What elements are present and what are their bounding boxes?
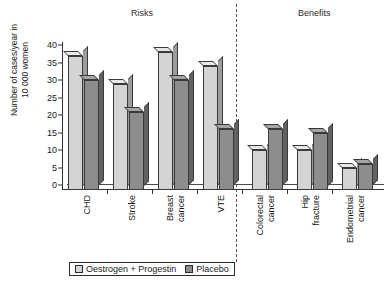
bar-front-face <box>203 66 218 190</box>
bar-front-face <box>158 52 173 190</box>
bar-hip-fracture-oestrogen-progestin[interactable] <box>297 150 312 190</box>
bar-vte-oestrogen-progestin[interactable] <box>203 66 218 190</box>
x-axis-label-hip-line1: Hip <box>300 195 310 209</box>
chart-figure: Risks Benefits Number of cases/year in 1… <box>0 0 391 290</box>
bar-front-face <box>313 133 328 191</box>
bar-front-face <box>219 129 234 190</box>
y-tick-mark-0 <box>58 185 62 186</box>
y-axis-line <box>62 42 63 190</box>
y-tick-mark-25 <box>58 97 62 98</box>
x-axis-label-breast-cancer-line2: cancer <box>176 195 186 222</box>
legend-entry-oestrogen-progestin[interactable]: Oestrogen + Progestin <box>75 264 176 274</box>
legend-swatch-icon-oestrogen-progestin <box>75 265 83 273</box>
x-axis-label-colorectal-line1: Colorectal <box>255 195 265 236</box>
bar-colorectal-cancer-oestrogen-progestin[interactable] <box>252 150 267 190</box>
x-tick-mark-4 <box>242 190 243 194</box>
bar-chd-placebo[interactable] <box>84 80 99 190</box>
legend-label-oestrogen-progestin: Oestrogen + Progestin <box>86 264 176 274</box>
plot-area: 0 5 10 15 20 25 30 35 40 <box>62 45 384 190</box>
x-axis-label-colorectal-line2: cancer <box>266 195 276 222</box>
bar-side-face <box>328 123 333 186</box>
bar-hip-fracture-placebo[interactable] <box>313 133 328 191</box>
legend-label-placebo: Placebo <box>196 264 229 274</box>
x-tick-mark-6 <box>332 190 333 194</box>
y-tick-mark-30 <box>58 80 62 81</box>
bar-front-face <box>342 168 357 191</box>
bar-front-face <box>174 80 189 190</box>
bar-vte-placebo[interactable] <box>219 129 234 190</box>
y-tick-mark-10 <box>58 150 62 151</box>
bar-stroke-placebo[interactable] <box>129 112 144 191</box>
section-header-benefits: Benefits <box>298 8 331 18</box>
bar-front-face <box>358 164 373 190</box>
bar-side-face <box>283 119 288 185</box>
y-tick-mark-20 <box>58 115 62 116</box>
bar-stroke-oestrogen-progestin[interactable] <box>113 84 128 191</box>
chart-legend: Oestrogen + Progestin Placebo <box>69 262 235 276</box>
y-axis-title: Number of cases/year in 10 000 women <box>9 0 37 145</box>
y-tick-mark-15 <box>58 132 62 133</box>
bar-colorectal-cancer-placebo[interactable] <box>268 129 283 190</box>
x-tick-mark-2 <box>152 190 153 194</box>
x-axis-label-vte: VTE <box>216 195 226 213</box>
x-tick-mark-5 <box>287 190 288 194</box>
bar-side-face <box>144 102 149 186</box>
y-tick-mark-5 <box>58 167 62 168</box>
legend-swatch-icon-placebo <box>185 265 193 273</box>
bar-side-face <box>189 70 194 185</box>
section-header-risks: Risks <box>131 8 153 18</box>
y-axis-title-line2: 10 000 women <box>20 42 30 98</box>
bar-front-face <box>113 84 128 191</box>
x-axis-label-hip-line2: fracture <box>311 195 321 226</box>
bar-endometrial-cancer-placebo[interactable] <box>358 164 373 190</box>
x-axis-label-stroke: Stroke <box>127 195 137 221</box>
bar-front-face <box>252 150 267 190</box>
bar-side-face <box>373 154 378 185</box>
x-axis-label-endometrial-line2: cancer <box>356 195 366 222</box>
legend-entry-placebo[interactable]: Placebo <box>185 264 229 274</box>
bar-endometrial-cancer-oestrogen-progestin[interactable] <box>342 168 357 191</box>
y-tick-mark-40 <box>58 45 62 46</box>
bar-breast-cancer-oestrogen-progestin[interactable] <box>158 52 173 190</box>
y-axis-title-line1: Number of cases/year in <box>9 24 19 116</box>
bar-front-face <box>84 80 99 190</box>
bar-side-face <box>234 119 239 185</box>
y-tick-mark-35 <box>58 62 62 63</box>
bar-front-face <box>129 112 144 191</box>
x-axis-label-breast-cancer-line1: Breast <box>165 195 175 221</box>
x-tick-mark-1 <box>107 190 108 194</box>
bar-front-face <box>297 150 312 190</box>
x-axis-label-chd: CHD <box>82 195 92 215</box>
bar-side-face <box>99 70 104 185</box>
x-axis-label-endometrial-line1: Endometrial <box>345 195 355 243</box>
bar-breast-cancer-placebo[interactable] <box>174 80 189 190</box>
bar-front-face <box>268 129 283 190</box>
x-tick-mark-3 <box>197 190 198 194</box>
